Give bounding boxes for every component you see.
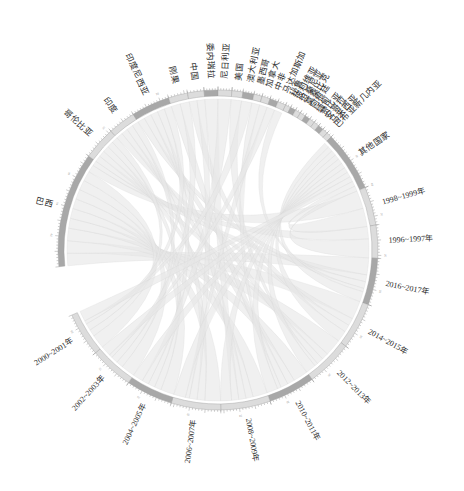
axis-tick <box>130 384 131 386</box>
axis-tick <box>364 184 366 185</box>
axis-tick <box>109 368 110 369</box>
axis-tick <box>79 168 81 169</box>
axis-tick <box>296 107 298 110</box>
axis-tick <box>346 346 349 348</box>
axis-tick-label: 20 <box>285 400 290 405</box>
period-label: 2012~2013年 <box>335 368 373 407</box>
period-label: 2014~2015年 <box>366 326 410 356</box>
axis-tick <box>340 354 341 355</box>
group-arc[interactable] <box>370 225 378 258</box>
axis-tick <box>348 344 349 345</box>
axis-tick <box>131 111 133 114</box>
axis-tick <box>291 104 293 107</box>
axis-tick <box>314 120 316 123</box>
axis-tick <box>138 389 139 391</box>
axis-tick <box>368 192 370 193</box>
axis-tick <box>114 126 115 127</box>
axis-tick <box>361 322 363 323</box>
axis-tick-label: 20 <box>186 413 190 418</box>
group-arc[interactable] <box>169 93 189 104</box>
group-arc[interactable] <box>242 92 254 100</box>
axis-tick <box>70 185 72 186</box>
group-arc[interactable] <box>187 91 204 99</box>
group-arc[interactable] <box>218 90 232 97</box>
axis-tick <box>342 351 343 352</box>
axis-tick <box>130 114 131 116</box>
axis-tick <box>293 391 294 393</box>
axis-tick <box>333 138 334 139</box>
period-label: 2004~2005年 <box>120 402 148 446</box>
period-label: 1998~1999年 <box>381 185 426 207</box>
axis-tick <box>322 372 323 373</box>
period-label: 2000~2001年 <box>32 335 75 367</box>
axis-tick <box>71 318 73 319</box>
axis-tick <box>356 167 358 168</box>
axis-tick <box>362 319 365 320</box>
axis-tick <box>157 100 158 102</box>
axis-tick <box>273 400 274 402</box>
axis-tick <box>140 391 142 394</box>
axis-tick <box>168 402 169 404</box>
axis-tick <box>361 178 363 179</box>
axis-tick <box>317 122 318 123</box>
axis-tick <box>327 367 328 368</box>
country-label: 美国 <box>233 62 245 81</box>
axis-tick <box>281 101 282 103</box>
axis-tick <box>276 399 277 401</box>
axis-tick <box>262 93 263 96</box>
axis-tick <box>187 90 188 93</box>
axis-tick <box>374 215 377 216</box>
axis-tick-label: 20 <box>327 373 332 378</box>
axis-tick <box>317 376 318 377</box>
group-arc[interactable] <box>231 91 243 98</box>
axis-tick <box>159 98 160 101</box>
axis-tick <box>321 126 322 127</box>
axis-tick <box>366 311 368 312</box>
axis-tick <box>144 392 145 394</box>
axis-tick <box>64 199 66 200</box>
axis-tick <box>84 341 87 343</box>
axis-tick <box>359 325 361 326</box>
axis-tick <box>338 356 339 357</box>
axis-tick <box>73 320 75 321</box>
axis-tick <box>148 104 149 106</box>
axis-tick <box>147 394 148 396</box>
chord-diagram-canvas: 204060202020402020202020202020202020巴西哥伦… <box>0 0 464 491</box>
axis-tick-label: 60 <box>67 171 72 176</box>
axis-tick <box>345 152 346 153</box>
axis-tick <box>279 398 280 400</box>
axis-tick <box>343 149 344 150</box>
axis-tick <box>125 381 126 382</box>
axis-tick <box>320 374 321 375</box>
period-label: 2010~2011年 <box>294 399 323 443</box>
axis-tick <box>96 142 99 144</box>
axis-tick <box>339 145 340 146</box>
axis-tick <box>264 403 265 405</box>
ribbon-layer <box>67 99 369 401</box>
axis-tick <box>366 190 368 191</box>
chord-diagram-figure: 204060202020402020202020202020202020巴西哥伦… <box>0 0 464 491</box>
axis-tick <box>370 198 372 199</box>
axis-tick <box>243 89 244 92</box>
axis-tick <box>367 308 369 309</box>
axis-tick <box>119 122 120 123</box>
axis-tick <box>80 334 82 335</box>
axis-tick <box>312 119 313 120</box>
axis-tick <box>171 95 172 97</box>
axis-tick <box>288 105 289 107</box>
group-arc[interactable] <box>204 90 218 97</box>
axis-tick <box>150 395 151 397</box>
axis-tick <box>96 355 97 356</box>
country-label: 印度 <box>101 95 120 115</box>
axis-tick <box>170 403 171 406</box>
axis-tick <box>74 323 76 324</box>
country-label: 哥伦比亚 <box>62 107 95 139</box>
axis-tick <box>127 383 129 386</box>
axis-tick <box>71 182 73 183</box>
axis-tick <box>360 176 362 177</box>
axis-tick <box>75 326 77 327</box>
axis-tick <box>80 162 83 164</box>
axis-tick <box>325 130 326 131</box>
axis-tick-label: 20 <box>379 213 384 217</box>
period-label: 2008~2009年 <box>244 417 262 462</box>
